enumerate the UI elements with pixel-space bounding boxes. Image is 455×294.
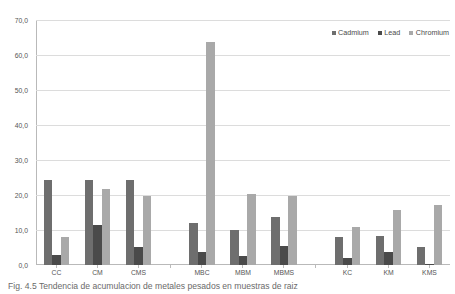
- bar-group: [182, 20, 223, 265]
- x-axis-label-mbc: MBC: [182, 268, 223, 280]
- bar-cadmium: [335, 237, 344, 265]
- bar-group: [222, 20, 263, 265]
- x-axis-label-spacer: [159, 268, 182, 280]
- bar-cadmium: [189, 223, 198, 265]
- bar-group: [77, 20, 118, 265]
- bar-chromium: [352, 227, 361, 266]
- bar-chromium: [434, 205, 443, 265]
- bar-chromium: [61, 237, 70, 265]
- bar-cadmium: [376, 236, 385, 265]
- x-axis-label-cc: CC: [36, 268, 77, 280]
- bar-chromium: [247, 194, 256, 265]
- bar-lead: [343, 258, 352, 265]
- bar-lead: [239, 256, 248, 265]
- bar-group: [327, 20, 368, 265]
- x-axis-label-spacer: [304, 268, 327, 280]
- y-axis-tick-label: 0,0: [0, 262, 28, 269]
- bar-group: [36, 20, 77, 265]
- bar-group: [368, 20, 409, 265]
- y-axis-tick-label: 60,0: [0, 52, 28, 59]
- bar-lead: [134, 247, 143, 265]
- x-axis-labels: CCCMCMSMBCMBMMBMSKCKMKMS: [36, 268, 450, 280]
- y-axis-tick-label: 40,0: [0, 122, 28, 129]
- bar-lead: [384, 252, 393, 265]
- bar-lead: [280, 246, 289, 265]
- bar-group: [409, 20, 450, 265]
- bar-chromium: [102, 189, 111, 265]
- bar-lead: [198, 252, 207, 265]
- bar-groups: [36, 20, 450, 265]
- x-axis-label-km: KM: [368, 268, 409, 280]
- bar-cadmium: [126, 180, 135, 265]
- bar-cadmium: [44, 180, 53, 265]
- bar-cadmium: [85, 180, 94, 265]
- y-axis-tick-label: 50,0: [0, 87, 28, 94]
- x-axis-label-mbm: MBM: [222, 268, 263, 280]
- group-spacer: [304, 20, 327, 265]
- bar-cadmium: [271, 217, 280, 265]
- bar-chromium: [143, 196, 152, 265]
- bar-chart: Cadmium Lead Chromium 70,060,050,040,030…: [0, 0, 455, 294]
- bar-group: [263, 20, 304, 265]
- y-axis-tick-label: 10,0: [0, 227, 28, 234]
- bar-lead: [52, 255, 61, 266]
- figure-caption: Fig. 4.5 Tendencia de acumulacion de met…: [8, 281, 448, 292]
- x-axis-label-cm: CM: [77, 268, 118, 280]
- bar-chromium: [288, 196, 297, 265]
- group-spacer: [159, 20, 182, 265]
- bar-group: [118, 20, 159, 265]
- x-axis-label-kc: KC: [327, 268, 368, 280]
- plot-area: [36, 20, 450, 265]
- bar-lead: [93, 225, 102, 265]
- bar-cadmium: [417, 247, 426, 265]
- y-axis-tick-label: 30,0: [0, 157, 28, 164]
- y-axis-tick-label: 20,0: [0, 192, 28, 199]
- bar-chromium: [206, 42, 215, 265]
- y-axis-tick-label: 70,0: [0, 17, 28, 24]
- x-axis-label-mbms: MBMS: [263, 268, 304, 280]
- bar-cadmium: [230, 230, 239, 265]
- bar-chromium: [393, 210, 402, 265]
- x-axis-label-kms: KMS: [409, 268, 450, 280]
- x-axis-label-cms: CMS: [118, 268, 159, 280]
